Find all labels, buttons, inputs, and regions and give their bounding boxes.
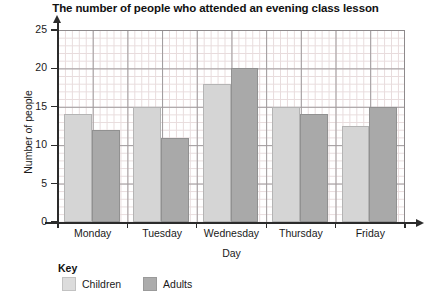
legend: Key ChildrenAdults bbox=[58, 262, 192, 291]
bar-friday-adults bbox=[369, 107, 397, 222]
plot-border-right bbox=[404, 30, 405, 222]
legend-items: ChildrenAdults bbox=[58, 277, 192, 291]
y-axis-tick-label: 25 bbox=[17, 23, 47, 35]
x-axis-title: Day bbox=[58, 247, 405, 259]
y-axis-tick bbox=[51, 106, 58, 107]
y-axis-title: Number of people bbox=[22, 57, 34, 207]
bar-wednesday-children bbox=[203, 84, 231, 222]
chart-title: The number of people who attended an eve… bbox=[0, 2, 431, 14]
y-axis-tick bbox=[51, 29, 58, 30]
x-axis-arrow bbox=[416, 219, 424, 227]
plot-area bbox=[58, 30, 405, 222]
y-axis-tick bbox=[51, 183, 58, 184]
y-axis-tick bbox=[51, 68, 58, 69]
bar-tuesday-adults bbox=[161, 138, 189, 222]
bar-friday-children bbox=[342, 126, 370, 222]
bar-thursday-adults bbox=[300, 114, 328, 222]
legend-label-adults: Adults bbox=[163, 278, 192, 290]
legend-swatch-children bbox=[62, 277, 76, 291]
y-axis-line bbox=[57, 22, 59, 223]
legend-swatch-adults bbox=[143, 277, 157, 291]
bar-wednesday-adults bbox=[231, 68, 259, 222]
legend-title: Key bbox=[58, 262, 192, 274]
bar-thursday-children bbox=[272, 107, 300, 222]
bar-tuesday-children bbox=[133, 107, 161, 222]
legend-item-adults: Adults bbox=[143, 277, 192, 291]
bar-monday-adults bbox=[92, 130, 120, 222]
y-axis-tick-label: 0 bbox=[17, 215, 47, 227]
x-axis-category-label-friday: Friday bbox=[325, 227, 415, 239]
plot-border-top bbox=[58, 30, 405, 31]
legend-item-children: Children bbox=[62, 277, 121, 291]
x-axis-line bbox=[45, 222, 417, 224]
y-axis-tick bbox=[51, 145, 58, 146]
y-axis-arrow bbox=[53, 15, 61, 23]
bar-monday-children bbox=[64, 114, 92, 222]
legend-label-children: Children bbox=[82, 278, 121, 290]
